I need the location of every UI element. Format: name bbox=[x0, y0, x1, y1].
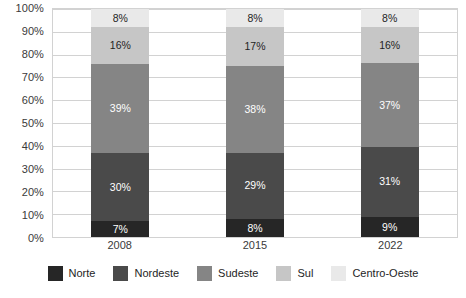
gridline bbox=[53, 237, 457, 238]
bar-segment-label: 8% bbox=[113, 13, 128, 24]
bar-segment[interactable]: 16% bbox=[91, 27, 149, 63]
bar-segment[interactable]: 29% bbox=[226, 153, 284, 219]
y-axis: 0%10%20%30%40%50%60%70%80%90%100% bbox=[0, 8, 48, 238]
bar-column[interactable]: 8%16%37%31%9% bbox=[361, 9, 419, 237]
x-axis-tick-label: 2022 bbox=[361, 239, 419, 257]
legend-item[interactable]: Nordeste bbox=[113, 266, 179, 281]
bars-layer: 8%16%39%30%7%8%17%38%29%8%8%16%37%31%9% bbox=[53, 9, 457, 237]
bar-segment-label: 38% bbox=[244, 104, 265, 115]
legend-swatch bbox=[113, 266, 128, 281]
x-axis-tick-label: 2015 bbox=[226, 239, 284, 257]
legend-item[interactable]: Norte bbox=[48, 266, 96, 281]
bar-segment-label: 16% bbox=[379, 40, 400, 51]
legend-label: Norte bbox=[69, 267, 96, 279]
bar-segment-label: 31% bbox=[379, 176, 400, 187]
y-axis-tick-label: 50% bbox=[22, 117, 44, 129]
y-axis-tick-label: 100% bbox=[15, 2, 44, 14]
bar-segment[interactable]: 16% bbox=[361, 27, 419, 63]
bar-segment-label: 9% bbox=[382, 222, 397, 233]
bar-segment[interactable]: 8% bbox=[226, 9, 284, 27]
bar-segment-label: 37% bbox=[379, 100, 400, 111]
bar-segment[interactable]: 38% bbox=[226, 66, 284, 153]
bar-segment[interactable]: 8% bbox=[226, 219, 284, 237]
bar-segment[interactable]: 31% bbox=[361, 147, 419, 217]
legend-swatch bbox=[276, 266, 291, 281]
plot-area: 8%16%39%30%7%8%17%38%29%8%8%16%37%31%9% bbox=[52, 8, 458, 238]
bar-segment[interactable]: 17% bbox=[226, 27, 284, 66]
legend-label: Centro-Oeste bbox=[352, 267, 418, 279]
legend-swatch bbox=[48, 266, 63, 281]
bar-segment-label: 16% bbox=[110, 40, 131, 51]
legend-label: Sul bbox=[297, 267, 313, 279]
bar-segment-label: 17% bbox=[244, 41, 265, 52]
bar-segment-label: 8% bbox=[247, 223, 262, 234]
y-axis-tick-label: 0% bbox=[28, 232, 44, 244]
bar-segment-label: 39% bbox=[110, 103, 131, 114]
y-axis-tick-label: 70% bbox=[22, 71, 44, 83]
legend-item[interactable]: Sul bbox=[276, 266, 313, 281]
x-axis: 200820152022 bbox=[52, 239, 458, 257]
legend-swatch bbox=[197, 266, 212, 281]
legend-item[interactable]: Centro-Oeste bbox=[331, 266, 418, 281]
y-axis-tick-label: 80% bbox=[22, 48, 44, 60]
y-axis-tick-label: 60% bbox=[22, 94, 44, 106]
stacked-bar-chart: 0%10%20%30%40%50%60%70%80%90%100% 8%16%3… bbox=[0, 0, 466, 298]
legend: NorteNordesteSudesteSulCentro-Oeste bbox=[0, 262, 466, 284]
bar-segment-label: 29% bbox=[244, 180, 265, 191]
x-axis-tick-label: 2008 bbox=[91, 239, 149, 257]
bar-segment-label: 8% bbox=[382, 13, 397, 24]
legend-swatch bbox=[331, 266, 346, 281]
y-axis-tick-label: 20% bbox=[22, 186, 44, 198]
y-axis-tick-label: 10% bbox=[22, 209, 44, 221]
legend-label: Nordeste bbox=[134, 267, 179, 279]
legend-item[interactable]: Sudeste bbox=[197, 266, 258, 281]
bar-segment[interactable]: 39% bbox=[91, 64, 149, 153]
bar-segment-label: 8% bbox=[247, 13, 262, 24]
legend-label: Sudeste bbox=[218, 267, 258, 279]
bar-segment[interactable]: 30% bbox=[91, 153, 149, 221]
bar-column[interactable]: 8%16%39%30%7% bbox=[91, 9, 149, 237]
y-axis-tick-label: 90% bbox=[22, 25, 44, 37]
plot-wrapper: 0%10%20%30%40%50%60%70%80%90%100% 8%16%3… bbox=[0, 0, 466, 255]
bar-column[interactable]: 8%17%38%29%8% bbox=[226, 9, 284, 237]
bar-segment[interactable]: 9% bbox=[361, 217, 419, 237]
bar-segment-label: 7% bbox=[113, 224, 128, 235]
bar-segment-label: 30% bbox=[110, 182, 131, 193]
bar-segment[interactable]: 8% bbox=[361, 9, 419, 27]
y-axis-tick-label: 40% bbox=[22, 140, 44, 152]
bar-segment[interactable]: 8% bbox=[91, 9, 149, 27]
y-axis-tick-label: 30% bbox=[22, 163, 44, 175]
bar-segment[interactable]: 37% bbox=[361, 63, 419, 147]
bar-segment[interactable]: 7% bbox=[91, 221, 149, 237]
